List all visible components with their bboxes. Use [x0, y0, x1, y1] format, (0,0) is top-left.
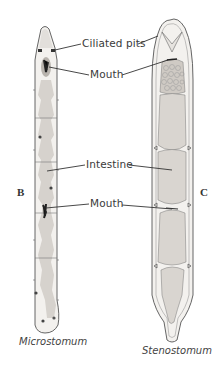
label-mouth-top: Mouth: [90, 68, 123, 80]
caption-stenostomum: Stenostomum: [142, 345, 212, 356]
panel-letter-c: C: [200, 186, 208, 198]
stenostomum-illustration: [152, 19, 193, 342]
label-mouth-bottom: Mouth: [90, 197, 123, 209]
label-ciliated-pits: Ciliated pits: [82, 37, 146, 49]
diagram-artwork: [0, 0, 219, 368]
microstomum-illustration: [33, 27, 59, 334]
label-intestine: Intestine: [86, 158, 133, 170]
caption-microstomum: Microstomum: [19, 336, 87, 347]
panel-letter-b: B: [17, 186, 24, 198]
